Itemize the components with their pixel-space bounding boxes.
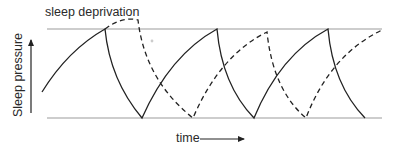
sleep-pressure-diagram: [0, 0, 396, 151]
sleep-deprivation-curve: [105, 19, 382, 118]
faint-dot: [151, 40, 154, 43]
y-axis-label: Sleep pressure: [12, 33, 25, 117]
x-axis-label: time: [176, 132, 200, 145]
sleep-deprivation-label: sleep deprivation: [45, 6, 140, 19]
normal-cycle-curve: [42, 29, 365, 118]
